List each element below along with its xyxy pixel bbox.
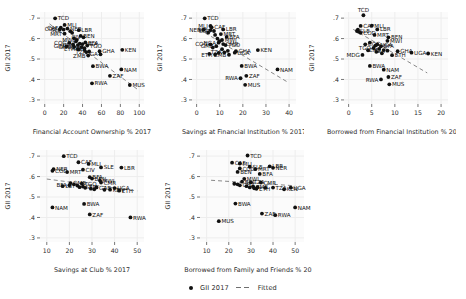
data-point [90,81,94,85]
scatter-plot: .3.4.5.6.7020406080100TCDMLINERCAFCODSLE… [0,0,152,138]
point-label: LBR [124,165,135,171]
y-axis-title: GII 2017 [308,44,316,71]
tick-label-x: 40 [285,109,293,116]
tick-label-y: .5 [29,193,35,200]
point-label: UGA [414,50,426,56]
point-label: MUS [221,218,234,224]
point-label: ETH [122,188,133,194]
data-point [238,162,242,166]
point-label: NAM [124,67,137,73]
legend-marker-icon [189,286,193,290]
data-point [271,186,275,190]
tick-label-x: 0 [195,109,199,116]
tick-label-y: .3 [189,234,195,241]
data-point [386,49,390,53]
point-label: NAM [298,205,311,211]
point-label: BWA [244,63,257,69]
tick-label-y: .7 [29,14,35,21]
data-point [226,49,230,53]
data-point [91,64,95,68]
data-point [83,186,87,190]
tick-label-y: .4 [29,214,35,221]
tick-label-y: .4 [189,214,195,221]
x-axis-title: Savings at Club % 2017 [54,266,130,274]
data-point [206,31,210,35]
data-point [373,33,377,37]
data-point [390,53,394,57]
data-point [387,82,391,86]
tick-label-y: .4 [333,76,339,83]
data-point [361,53,365,57]
point-label: BWA [96,63,109,69]
point-label: TCD [249,153,261,159]
panel-borrowed-financial-institution: .3.4.5.6.705101520TCDCAFMLILBRSLECODMRTB… [304,0,456,138]
data-point [89,187,93,191]
point-label: KEN [260,47,271,53]
point-label: MRT [50,31,62,37]
data-point [256,48,260,52]
data-point [232,182,236,186]
tick-label-x: 50 [133,247,141,254]
tick-label-y: .7 [333,14,339,21]
point-label: MUS [392,81,405,87]
panel-borrowed-family-friends: .3.4.5.6.71020304050TCDCAFMLISLELBRNERCO… [160,138,312,276]
data-point [99,165,103,169]
tick-label-y: .5 [29,55,35,62]
point-label: MDG [346,52,359,58]
tick-label-y: .3 [29,234,35,241]
data-point [271,166,275,170]
tick-label-x: 20 [239,109,247,116]
tick-label-x: 40 [111,247,119,254]
data-point [212,29,216,33]
data-point [51,169,55,173]
data-point [256,185,260,189]
data-point [63,32,67,36]
data-point [366,48,370,52]
point-label: BFA [384,43,395,49]
point-label: KEN [125,47,136,53]
data-point [209,42,213,46]
data-point [88,213,92,217]
data-point [230,161,234,165]
point-label: TGO [227,42,241,48]
data-point [252,186,256,190]
point-label: RWA [225,75,238,81]
data-point [243,83,247,87]
data-point [362,13,366,17]
data-point [236,182,240,186]
data-point [380,51,384,55]
point-label: CIV [86,167,96,173]
point-label: ZAF [249,73,260,79]
point-label: ZMB [73,53,86,59]
data-point [98,49,102,53]
point-label: NAM [386,67,399,73]
tick-label-x: 30 [88,247,96,254]
point-label: ZAF [92,212,103,218]
y-axis-title: GII 2017 [4,182,12,209]
tick-label-y: .5 [189,193,195,200]
data-point [63,23,67,27]
data-point [276,68,280,72]
panel-savings-financial-institution: .3.4.5.6.7010203040TCDCAFMLILBRNERSLECOD… [152,0,304,138]
data-point [92,187,96,191]
data-point [108,74,112,78]
legend-line-label: Fitted [258,284,277,292]
data-point [119,166,123,170]
data-point [368,64,372,68]
point-label: TCD [206,15,218,21]
data-point [263,186,267,190]
data-point [62,154,66,158]
data-point [234,202,238,206]
point-label: KEN [287,186,298,192]
tick-label-y: .6 [29,173,35,180]
data-point [85,44,89,48]
data-point [211,46,215,50]
data-point [370,24,374,28]
x-axis-title: Borrowed from Financial Institution % 20… [327,128,456,136]
point-label: UGA [237,50,249,56]
point-label: RWA [95,80,108,86]
panel-savings-club: .3.4.5.6.71020304050TCDCAFMLISLELBRNERCO… [0,138,152,276]
point-label: ETH [64,46,75,52]
data-point [246,154,250,158]
point-label: SLE [104,164,115,170]
